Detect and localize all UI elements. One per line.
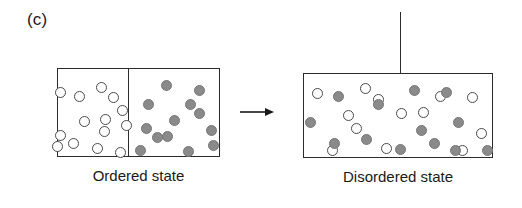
filled-particle xyxy=(416,125,427,136)
open-particle xyxy=(96,82,107,93)
open-particle xyxy=(121,120,132,131)
filled-particle xyxy=(162,131,173,142)
open-particle xyxy=(117,105,128,116)
open-particle xyxy=(312,88,323,99)
filled-particle xyxy=(206,125,217,136)
open-particle xyxy=(55,130,66,141)
filled-particle xyxy=(333,91,344,102)
entropy-mixing-figure: (c) Ordered state Disordered state xyxy=(0,0,522,208)
filled-particle xyxy=(152,132,163,143)
filled-particle xyxy=(482,145,493,156)
filled-particle xyxy=(361,134,372,145)
open-particle xyxy=(467,92,478,103)
filled-particle xyxy=(450,145,461,156)
open-particle xyxy=(381,143,392,154)
open-particle xyxy=(343,110,354,121)
open-particle xyxy=(55,87,66,98)
open-particle xyxy=(418,107,429,118)
filled-particle xyxy=(373,99,384,110)
open-particle xyxy=(115,147,126,158)
filled-particle xyxy=(135,145,146,156)
filled-particle xyxy=(395,144,406,155)
open-particle xyxy=(396,108,407,119)
filled-particle xyxy=(208,140,219,151)
filled-particle xyxy=(429,138,440,149)
open-particle xyxy=(476,128,487,139)
filled-particle xyxy=(305,117,316,128)
open-particle xyxy=(79,116,90,127)
filled-particle xyxy=(441,87,452,98)
open-particle xyxy=(52,141,63,152)
filled-particle xyxy=(143,99,154,110)
filled-particle xyxy=(185,99,196,110)
filled-particle xyxy=(194,85,205,96)
open-particle xyxy=(68,138,79,149)
ordered-state-caption: Ordered state xyxy=(57,167,220,184)
filled-particle xyxy=(329,138,340,149)
filled-particle xyxy=(169,115,180,126)
compartment-divider xyxy=(128,68,129,157)
filled-particle xyxy=(453,117,464,128)
panel-label: (c) xyxy=(27,10,47,30)
open-particle xyxy=(351,123,362,134)
disordered-state-caption: Disordered state xyxy=(303,168,493,185)
open-particle xyxy=(74,91,85,102)
filled-particle xyxy=(183,146,194,157)
right-arrow-icon xyxy=(240,105,274,119)
open-particle xyxy=(108,92,119,103)
filled-particle xyxy=(409,85,420,96)
open-particle xyxy=(92,143,103,154)
filled-particle xyxy=(141,123,152,134)
open-particle xyxy=(360,83,371,94)
filled-particle xyxy=(161,80,172,91)
open-particle xyxy=(99,126,110,137)
filled-particle xyxy=(194,108,205,119)
open-particle xyxy=(100,114,111,125)
